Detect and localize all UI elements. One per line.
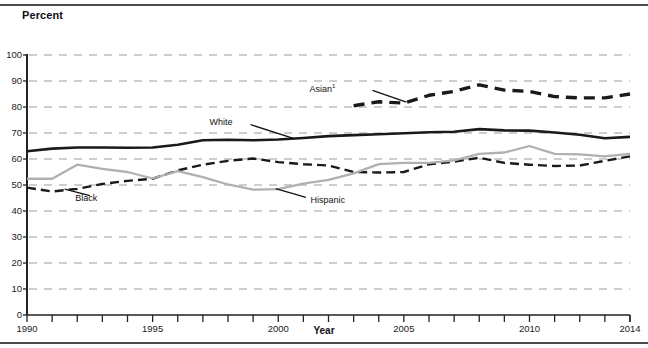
y-tick-label-70: 70 — [0, 127, 22, 138]
series-label-hispanic: Hispanic — [310, 195, 345, 205]
x-tick-label-1995: 1995 — [133, 323, 173, 334]
y-tick-label-40: 40 — [0, 205, 22, 216]
series-label-asian: Asian1 — [310, 83, 336, 94]
y-tick-label-30: 30 — [0, 231, 22, 242]
y-tick-label-50: 50 — [0, 179, 22, 190]
y-tick-label-80: 80 — [0, 101, 22, 112]
chart-figure: Percent Year 010203040506070809010019901… — [0, 0, 648, 348]
x-tick-label-2005: 2005 — [384, 323, 424, 334]
y-tick-label-10: 10 — [0, 283, 22, 294]
series-line-black — [27, 156, 630, 191]
series-line-asian — [354, 85, 630, 106]
series-label-black: Black — [75, 193, 97, 203]
x-tick-label-2010: 2010 — [510, 323, 550, 334]
series-label-white: White — [209, 117, 232, 127]
plot-area — [0, 0, 648, 348]
y-tick-label-90: 90 — [0, 75, 22, 86]
leader-line-hispanic — [276, 189, 306, 198]
y-tick-label-20: 20 — [0, 257, 22, 268]
asian-footnote-marker: 1 — [332, 83, 335, 89]
y-tick-label-60: 60 — [0, 153, 22, 164]
leader-line-white — [251, 125, 294, 139]
series-line-white — [27, 129, 630, 151]
x-tick-label-2000: 2000 — [258, 323, 298, 334]
x-tick-label-2014: 2014 — [610, 323, 648, 334]
y-tick-label-0: 0 — [0, 309, 22, 320]
x-tick-label-1990: 1990 — [7, 323, 47, 334]
y-tick-label-100: 100 — [0, 49, 22, 60]
